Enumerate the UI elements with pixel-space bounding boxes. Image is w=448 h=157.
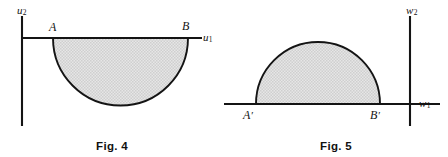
figure-5-caption: Fig. 5 [224, 140, 448, 152]
axis-label-w1: w1 [419, 98, 430, 110]
point-label-a: A [49, 21, 56, 33]
figure-4-drawing [0, 0, 224, 134]
axis-label-w2: w2 [406, 5, 417, 17]
shaded-semicircle-region [256, 42, 380, 134]
axis-label-u2: u2 [17, 5, 27, 17]
figure-4: u2 u1 A B Fig. 4 [0, 0, 224, 157]
figure-sheet: u2 u1 A B Fig. 4 [0, 0, 448, 157]
point-label-a-prime: A′ [243, 109, 253, 121]
axis-label-u1: u1 [203, 32, 213, 44]
figure-5-drawing [224, 0, 448, 134]
point-label-b-prime: B′ [370, 109, 380, 121]
figure-5: w2 w1 A′ B′ Fig. 5 [224, 0, 448, 157]
point-label-b: B [182, 20, 189, 32]
shaded-semicircle-region [53, 0, 188, 106]
figure-4-caption: Fig. 4 [0, 140, 224, 152]
